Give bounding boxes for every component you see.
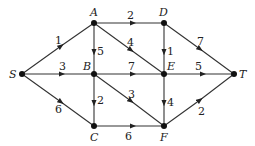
weight-e-f: 4 (167, 96, 174, 109)
node-label-c: C (90, 131, 99, 144)
node-c (91, 123, 97, 129)
node-d (161, 20, 167, 26)
node-label-s: S (9, 68, 17, 81)
weight-s-c: 6 (55, 103, 62, 116)
weight-b-f: 3 (128, 88, 135, 101)
weight-s-a: 1 (55, 34, 62, 47)
node-f (161, 123, 167, 129)
node-t (231, 71, 237, 77)
weight-a-b: 5 (97, 45, 104, 58)
weight-s-b: 3 (59, 60, 66, 73)
node-label-t: T (239, 68, 248, 81)
node-label-a: A (89, 6, 98, 19)
weight-f-t: 2 (198, 105, 205, 118)
weight-a-e: 4 (127, 36, 134, 49)
edge-weights: 1 3 6 2 5 4 1 7 7 2 3 5 4 6 2 (55, 9, 205, 143)
flow-network-diagram: S A D B E T C F 1 3 6 2 5 4 1 7 7 2 3 5 … (0, 0, 255, 146)
weight-b-e: 7 (128, 60, 135, 73)
node-b (91, 71, 97, 77)
weight-a-d: 2 (127, 9, 134, 22)
node-label-d: D (158, 6, 168, 19)
node-s (19, 71, 25, 77)
weight-d-e: 1 (167, 45, 174, 58)
node-label-e: E (166, 60, 175, 73)
edge-f-t (164, 74, 234, 126)
node-a (91, 20, 97, 26)
weight-e-t: 5 (195, 60, 202, 73)
edge-s-c (22, 74, 94, 126)
weight-c-f: 6 (125, 130, 132, 143)
node-label-b: B (82, 60, 91, 73)
weight-d-t: 7 (197, 35, 204, 48)
node-labels: S A D B E T C F (9, 6, 248, 144)
node-label-f: F (159, 131, 168, 144)
weight-b-c: 2 (97, 94, 104, 107)
